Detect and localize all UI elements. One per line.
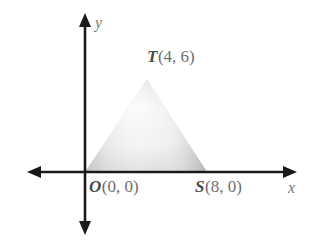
- vertex-point-letter-s: S: [195, 177, 205, 196]
- x-axis-label: x: [288, 180, 295, 196]
- x-axis-left-arrowhead: [27, 166, 41, 178]
- y-axis-down-arrowhead: [79, 221, 91, 235]
- vertex-coords-t: (4, 6): [158, 47, 195, 66]
- vertex-label-t: T(4, 6): [147, 48, 195, 65]
- triangle-OST: [85, 79, 207, 172]
- x-axis-right-arrowhead: [283, 166, 297, 178]
- vertex-coords-o: (0, 0): [102, 177, 139, 196]
- y-axis: [79, 13, 91, 235]
- vertex-coords-s: (8, 0): [205, 177, 242, 196]
- vertex-point-letter-o: O: [89, 177, 102, 196]
- y-axis-label: y: [95, 15, 102, 31]
- coordinate-plane-svg: [0, 0, 319, 244]
- vertex-label-o: O(0, 0): [89, 178, 139, 195]
- y-axis-up-arrowhead: [79, 13, 91, 27]
- vertex-point-letter-t: T: [147, 47, 158, 66]
- coordinate-plane-figure: T(4, 6) O(0, 0) S(8, 0) y x: [0, 0, 319, 244]
- vertex-label-s: S(8, 0): [195, 178, 242, 195]
